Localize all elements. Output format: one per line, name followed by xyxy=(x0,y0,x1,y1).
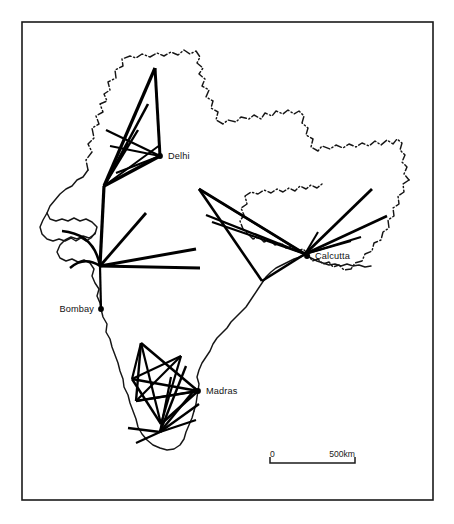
city-label-madras: Madras xyxy=(206,386,238,396)
city-dot-madras[interactable] xyxy=(195,388,201,394)
india-flow-map: DelhiCalcuttaBombayMadras 0500km xyxy=(0,0,454,524)
flow-line-bombay xyxy=(100,266,200,268)
city-label-delhi: Delhi xyxy=(168,151,190,161)
flow-line-bombay xyxy=(100,266,101,309)
city-label-calcutta: Calcutta xyxy=(315,251,351,261)
scale-bar-end-label: 500km xyxy=(329,449,355,459)
city-dot-delhi[interactable] xyxy=(157,153,163,159)
city-dot-calcutta[interactable] xyxy=(304,253,310,259)
map-figure: DelhiCalcuttaBombayMadras 0500km xyxy=(0,0,454,524)
city-label-bombay: Bombay xyxy=(59,304,94,314)
city-dot-bombay[interactable] xyxy=(98,306,104,312)
scale-bar-start-label: 0 xyxy=(270,449,275,459)
